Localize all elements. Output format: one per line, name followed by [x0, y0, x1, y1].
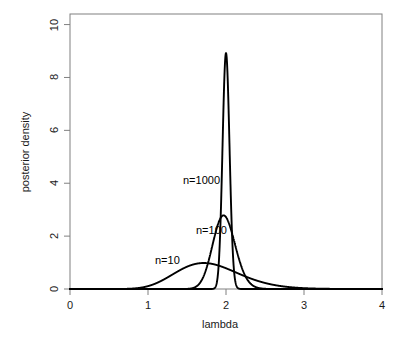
y-axis-tick-label: 6	[49, 127, 60, 133]
density-curve-n-1000	[70, 53, 382, 289]
y-axis-tick-marks	[64, 25, 70, 289]
series-annotation-n-1000: n=1000	[183, 175, 220, 186]
y-axis-title: posterior density	[20, 112, 31, 193]
x-axis-tick-label: 0	[67, 300, 73, 311]
y-axis-tick-label: 8	[49, 74, 60, 80]
x-axis-tick-label: 2	[223, 300, 229, 311]
x-axis-tick-label: 3	[301, 300, 307, 311]
y-axis-tick-label: 10	[49, 18, 60, 30]
posterior-density-chart: 01234 0246810 n=1000n=100n=10 lambda pos…	[0, 0, 404, 344]
x-axis-tick-label: 1	[145, 300, 151, 311]
density-curves	[70, 53, 382, 289]
y-axis-tick-label: 4	[49, 180, 60, 186]
series-annotation-n-10: n=10	[155, 255, 180, 266]
x-axis-tick-label: 4	[379, 300, 385, 311]
series-annotation-n-100: n=100	[196, 225, 227, 236]
density-curve-n-10	[70, 263, 382, 289]
x-axis-title: lambda	[202, 319, 238, 330]
plot-canvas	[0, 0, 404, 344]
y-axis-tick-label: 0	[49, 286, 60, 292]
y-axis-tick-label: 2	[49, 233, 60, 239]
